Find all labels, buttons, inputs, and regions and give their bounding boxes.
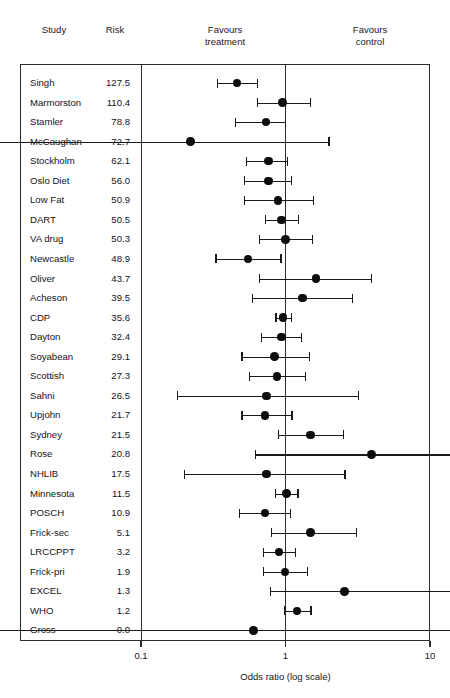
odds-ratio-marker	[186, 137, 195, 146]
confidence-interval-row	[0, 103, 450, 104]
null-effect-line	[285, 64, 286, 641]
odds-ratio-marker	[340, 587, 349, 596]
odds-ratio-marker	[264, 177, 273, 186]
confidence-interval-line	[0, 630, 450, 631]
x-axis-tick-label: 10	[410, 650, 450, 661]
ci-lower-cap	[244, 176, 245, 185]
ci-lower-cap	[265, 215, 266, 224]
confidence-interval-row	[0, 396, 450, 397]
ci-lower-cap	[235, 118, 236, 127]
annotation-favours-treatment: Favours treatment	[185, 24, 265, 47]
ci-lower-cap	[278, 430, 279, 439]
ci-upper-cap	[310, 606, 311, 615]
ci-upper-cap	[328, 137, 329, 146]
ci-lower-cap	[259, 235, 260, 244]
confidence-interval-row	[0, 142, 450, 143]
ci-lower-cap	[241, 411, 242, 420]
odds-ratio-marker	[306, 528, 315, 537]
confidence-interval-row	[0, 533, 450, 534]
ci-lower-cap	[244, 196, 245, 205]
confidence-interval-row	[0, 337, 450, 338]
odds-ratio-marker	[281, 568, 290, 577]
confidence-interval-row	[0, 435, 450, 436]
ci-lower-cap	[241, 352, 242, 361]
x-axis-title: Odds ratio (log scale)	[141, 671, 430, 682]
confidence-interval-row	[0, 415, 450, 416]
ci-upper-cap	[344, 470, 345, 479]
forest-plot-figure: Study Risk Favours treatment Favours con…	[0, 0, 450, 698]
confidence-interval-row	[0, 611, 450, 612]
odds-ratio-marker	[278, 98, 287, 107]
ci-upper-cap	[287, 157, 288, 166]
odds-ratio-marker	[298, 294, 307, 303]
confidence-interval-row	[0, 357, 450, 358]
odds-ratio-marker	[367, 450, 376, 459]
ci-upper-cap	[305, 372, 306, 381]
confidence-interval-row	[0, 376, 450, 377]
annotation-favours-control: Favours control	[330, 24, 410, 47]
ci-lower-cap	[257, 98, 258, 107]
confidence-interval-row	[0, 259, 450, 260]
confidence-interval-row	[0, 572, 450, 573]
odds-ratio-marker	[273, 372, 282, 381]
x-axis-tick	[140, 641, 141, 647]
confidence-interval-line	[0, 142, 329, 143]
odds-ratio-marker	[306, 431, 315, 440]
ci-upper-cap	[301, 333, 302, 342]
x-axis-tick	[429, 641, 430, 647]
confidence-interval-row	[0, 513, 450, 514]
confidence-interval-row	[0, 494, 450, 495]
confidence-interval-line	[235, 122, 285, 123]
confidence-interval-row	[0, 181, 450, 182]
odds-ratio-marker	[262, 470, 271, 479]
ci-lower-cap	[252, 294, 253, 303]
ci-upper-cap	[280, 254, 281, 263]
odds-ratio-marker	[277, 216, 286, 225]
x-axis-tick-label: 0.1	[121, 650, 161, 661]
ci-lower-cap	[184, 470, 185, 479]
ci-upper-cap	[356, 528, 357, 537]
ci-lower-cap	[263, 548, 264, 557]
ci-lower-cap	[215, 254, 216, 263]
ci-lower-cap	[217, 79, 218, 88]
confidence-interval-line	[271, 591, 450, 592]
x-axis-tick	[285, 641, 286, 647]
ci-lower-cap	[263, 567, 264, 576]
ci-lower-cap	[255, 450, 256, 459]
ci-upper-cap	[307, 567, 308, 576]
ci-upper-cap	[298, 215, 299, 224]
ci-upper-cap	[291, 313, 292, 322]
ci-lower-cap	[239, 509, 240, 518]
confidence-interval-row	[0, 200, 450, 201]
confidence-interval-row	[0, 83, 450, 84]
column-header-risk: Risk	[92, 24, 138, 36]
confidence-interval-row	[0, 552, 450, 553]
ci-lower-cap	[249, 372, 250, 381]
x-axis-tick-label: 1	[266, 650, 306, 661]
confidence-interval-row	[0, 474, 450, 475]
confidence-interval-row	[0, 122, 450, 123]
ci-upper-cap	[290, 509, 291, 518]
confidence-interval-row	[0, 279, 450, 280]
confidence-interval-row	[0, 239, 450, 240]
ci-lower-cap	[270, 587, 271, 596]
confidence-interval-line	[256, 454, 450, 455]
ci-upper-cap	[257, 79, 258, 88]
ci-lower-cap	[284, 606, 285, 615]
ci-upper-cap	[313, 196, 314, 205]
confidence-interval-row	[0, 630, 450, 631]
ci-upper-cap	[295, 548, 296, 557]
confidence-interval-row	[0, 161, 450, 162]
odds-ratio-marker	[261, 411, 270, 420]
odds-ratio-marker	[262, 392, 271, 401]
confidence-interval-row	[0, 318, 450, 319]
ci-upper-cap	[310, 98, 311, 107]
ci-upper-cap	[352, 294, 353, 303]
ci-lower-cap	[246, 157, 247, 166]
confidence-interval-row	[0, 454, 450, 455]
ci-upper-cap	[343, 430, 344, 439]
ci-lower-cap	[259, 274, 260, 283]
ci-lower-cap	[261, 333, 262, 342]
ci-upper-cap	[371, 274, 372, 283]
odds-ratio-marker	[264, 157, 273, 166]
